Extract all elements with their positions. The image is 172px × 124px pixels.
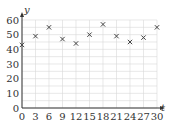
x-tick-label: 0 [19, 111, 25, 122]
y-tick-label: 40 [6, 44, 19, 55]
y-tick-label: 0 [13, 103, 19, 114]
x-axis-label: t [161, 102, 166, 113]
y-tick-label: 10 [6, 88, 19, 99]
x-tick-label: 18 [97, 111, 110, 122]
x-tick-label: 9 [59, 111, 65, 122]
scatter-chart: 0369121518212427300102030405060 t y [0, 0, 172, 124]
grid [22, 20, 157, 108]
y-tick-label: 50 [6, 29, 19, 40]
x-tick-label: 15 [83, 111, 96, 122]
tick-labels: 0369121518212427300102030405060 [6, 15, 163, 123]
y-axis-label: y [23, 4, 30, 15]
x-tick-label: 3 [32, 111, 38, 122]
x-tick-label: 24 [124, 111, 137, 122]
x-tick-label: 6 [46, 111, 52, 122]
y-tick-label: 60 [6, 15, 19, 26]
y-tick-label: 20 [6, 73, 19, 84]
x-tick-label: 12 [70, 111, 83, 122]
y-tick-label: 30 [6, 59, 19, 70]
x-tick-label: 21 [110, 111, 123, 122]
x-tick-label: 27 [137, 111, 150, 122]
